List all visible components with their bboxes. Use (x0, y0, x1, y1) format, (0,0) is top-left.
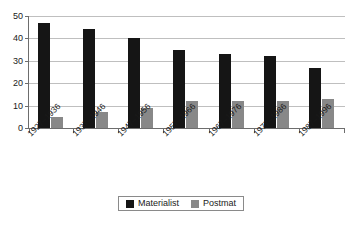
legend-entry-postmat: Postmat (191, 199, 236, 208)
legend-label: Postmat (203, 199, 236, 208)
chart-legend: Materialist Postmat (118, 196, 244, 211)
y-axis-tick-label: 40 (13, 34, 23, 43)
x-axis-label-cell: 1947–1956 (118, 130, 163, 178)
bar-postmat (51, 117, 63, 128)
legend-swatch-icon (126, 200, 134, 208)
y-axis-tick-label: 10 (13, 101, 23, 110)
x-axis-label-cell: 1957–1966 (163, 130, 208, 178)
y-axis-tick-label: 20 (13, 79, 23, 88)
legend-entry-materialist: Materialist (126, 199, 179, 208)
y-axis-tick-label: 50 (13, 12, 23, 21)
bar-chart: 01020304050 1927–19361937–19461947–19561… (0, 0, 353, 225)
x-axis-labels: 1927–19361937–19461947–19561957–19661967… (28, 130, 344, 178)
x-axis-label-cell: 1937–1946 (73, 130, 118, 178)
y-axis-tick-label: 0 (18, 124, 23, 133)
x-axis-label-cell: 1987–1996 (299, 130, 344, 178)
x-axis-tick (344, 128, 345, 133)
legend-swatch-icon (191, 200, 199, 208)
y-axis-tick-label: 30 (13, 56, 23, 65)
x-axis-label-cell: 1967–1976 (209, 130, 254, 178)
x-axis-label-cell: 1927–1936 (28, 130, 73, 178)
legend-label: Materialist (138, 199, 179, 208)
x-axis-label-cell: 1977–1986 (254, 130, 299, 178)
